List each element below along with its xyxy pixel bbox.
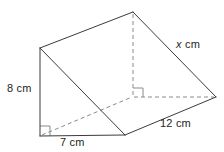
edge-top-ridge-left <box>40 12 133 48</box>
dimension-label-depth: 12 cm <box>160 117 191 130</box>
slant-unit: cm <box>182 38 200 50</box>
edge-slant-x <box>133 12 216 97</box>
prism-figure: 8 cm 7 cm 12 cm x cm <box>0 0 224 152</box>
dimension-label-height: 8 cm <box>7 82 32 95</box>
right-angle-mark-interior <box>133 88 143 97</box>
edge-front-hypotenuse <box>40 48 125 135</box>
dimension-label-slant: x cm <box>176 38 200 51</box>
hidden-edge-bottom-left-to-back-corner <box>42 97 132 135</box>
dimension-label-base: 7 cm <box>60 136 85 149</box>
right-angle-mark-front-bottom-left <box>40 126 50 136</box>
